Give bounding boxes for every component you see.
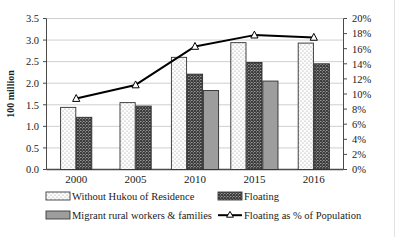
bar [61, 107, 76, 169]
right-tick-label: 4% [352, 134, 366, 145]
bar [263, 81, 278, 169]
right-tick-label: 6% [352, 119, 366, 130]
x-axis-category-label: 2015 [243, 173, 266, 185]
bar [171, 57, 186, 169]
left-tick-label: 0.5 [26, 143, 39, 154]
bar [136, 106, 151, 169]
right-tick-label: 8% [352, 104, 366, 115]
left-axis-tick-labels: 3.5 3.0 2.5 2.0 1.5 1.0 0.5 0.0 [26, 13, 39, 175]
x-axis-category-label: 2005 [125, 173, 148, 185]
right-tick-label: 12% [352, 74, 372, 85]
left-axis-ticks [43, 19, 47, 170]
bar [203, 91, 218, 170]
legend-label: Without Hukou of Residence [72, 191, 195, 202]
legend-label: Floating [244, 191, 280, 202]
right-axis-tick-labels: 20% 18% 16% 14% 12% 10% 8% 6% 4% 2% 0% [352, 13, 372, 175]
right-tick-label: 10% [352, 89, 372, 100]
left-tick-label: 0.0 [26, 164, 39, 175]
bar [77, 117, 92, 169]
legend: Without Hukou of Residence Floating Migr… [46, 191, 362, 221]
right-tick-label: 20% [352, 13, 372, 24]
left-tick-label: 1.0 [26, 121, 39, 132]
legend-item-floating-pct[interactable]: Floating as % of Population [218, 210, 362, 221]
left-tick-label: 3.0 [26, 35, 39, 46]
left-tick-label: 2.0 [26, 78, 39, 89]
chart-container: 3.5 3.0 2.5 2.0 1.5 1.0 0.5 0.0 20% 18% … [0, 0, 396, 237]
legend-swatch-cross-hatch [218, 192, 242, 200]
x-axis-category-label: 2000 [65, 173, 88, 185]
left-tick-label: 3.5 [26, 13, 39, 24]
bar [314, 64, 329, 170]
legend-swatch-solid-gray [46, 211, 70, 219]
legend-label: Migrant rural workers & families [72, 210, 212, 221]
x-axis-category-label: 2016 [303, 173, 326, 185]
right-axis-ticks [344, 19, 348, 170]
legend-item-without-hukou[interactable]: Without Hukou of Residence [46, 191, 195, 202]
legend-item-migrant-rural-workers[interactable]: Migrant rural workers & families [46, 210, 212, 221]
right-tick-label: 18% [352, 28, 372, 39]
bar [187, 74, 202, 169]
combo-bar-line-chart: 3.5 3.0 2.5 2.0 1.5 1.0 0.5 0.0 20% 18% … [0, 0, 396, 237]
left-tick-label: 2.5 [26, 56, 39, 67]
bar [231, 43, 246, 170]
right-tick-label: 2% [352, 149, 366, 160]
x-axis-category-label: 2010 [184, 173, 207, 185]
bar [120, 103, 135, 170]
right-tick-label: 16% [352, 44, 372, 55]
legend-label: Floating as % of Population [244, 210, 362, 221]
bar [247, 63, 262, 170]
legend-item-floating[interactable]: Floating [218, 191, 280, 202]
left-tick-label: 1.5 [26, 100, 39, 111]
right-tick-label: 0% [352, 164, 366, 175]
y-axis-title: 100 million [5, 70, 16, 118]
x-axis-category-labels: 20002005201020152016 [65, 173, 325, 185]
legend-swatch-light-dots [46, 192, 70, 200]
canvas-right-border [394, 0, 395, 237]
bar [298, 43, 313, 169]
right-tick-label: 14% [352, 59, 372, 70]
